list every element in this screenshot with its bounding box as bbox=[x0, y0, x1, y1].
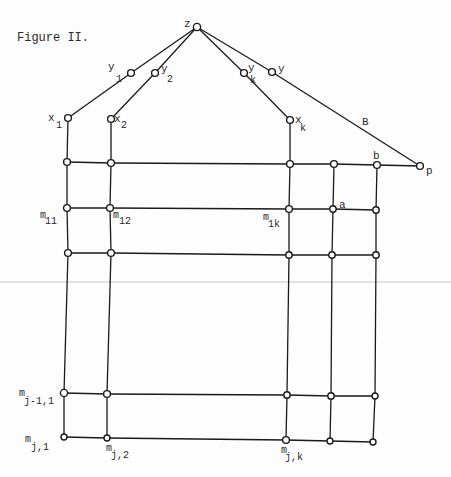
label-xk-sub: k bbox=[300, 123, 306, 134]
node-a bbox=[330, 206, 336, 212]
label-b: b bbox=[373, 150, 380, 162]
label-y1-sub: 1 bbox=[116, 74, 122, 85]
node-mj-1-c-b bbox=[372, 393, 378, 399]
label-mj-1-1-sub: j-1,1 bbox=[24, 396, 54, 407]
node-m11 bbox=[64, 205, 71, 212]
node-mj-1-1 bbox=[60, 389, 67, 396]
node-yk bbox=[241, 70, 248, 77]
tree-edges bbox=[67, 27, 420, 166]
node-mjk bbox=[283, 437, 290, 444]
node-r3-c-b bbox=[373, 252, 379, 258]
grid-horizontal-edges bbox=[64, 162, 420, 442]
nodes bbox=[60, 23, 423, 445]
edge-x1-row1 bbox=[67, 118, 68, 162]
node-mj-1-2 bbox=[104, 391, 111, 398]
node-mj1 bbox=[61, 434, 67, 440]
node-mj-1-k bbox=[284, 392, 290, 398]
label-a: a bbox=[339, 199, 346, 211]
label-p: p bbox=[426, 165, 433, 177]
label-y1-base: y bbox=[108, 61, 115, 73]
node-mj-c-a bbox=[327, 438, 333, 444]
node-p bbox=[417, 163, 424, 170]
grid-vertical-edges bbox=[64, 162, 377, 442]
node-r1-c1 bbox=[64, 159, 71, 166]
graph-svg: Figure II. z y 1 y 2 y k y x 1 x 2 x k B… bbox=[0, 0, 451, 477]
node-y bbox=[269, 69, 276, 76]
label-m12-sub: 12 bbox=[119, 216, 131, 227]
node-mj2 bbox=[104, 435, 110, 441]
node-r3-c-a bbox=[329, 252, 335, 258]
label-yk-base: y bbox=[248, 62, 255, 74]
figure-ii-diagram: Figure II. z y 1 y 2 y k y x 1 x 2 x k B… bbox=[0, 0, 451, 477]
node-y1 bbox=[128, 70, 135, 77]
node-r1-c2 bbox=[108, 160, 115, 167]
node-r3-c2 bbox=[108, 250, 115, 257]
label-x2-base: x bbox=[114, 113, 121, 125]
node-r3-c1 bbox=[65, 250, 72, 257]
label-m11-sub: 11 bbox=[45, 216, 57, 227]
label-x2-sub: 2 bbox=[121, 120, 127, 131]
node-z bbox=[193, 23, 200, 30]
label-mj2-sub: j,2 bbox=[111, 450, 129, 461]
edge-z-y bbox=[197, 27, 272, 72]
node-r1-ck bbox=[287, 161, 294, 168]
label-x1-sub: 1 bbox=[56, 120, 62, 131]
node-x1 bbox=[65, 115, 72, 122]
node-r1-c-a bbox=[331, 161, 338, 168]
label-mjk-sub: j,k bbox=[285, 452, 303, 463]
label-mj1-sub: j,1 bbox=[31, 442, 49, 453]
row-1-line bbox=[67, 162, 420, 166]
label-z: z bbox=[184, 18, 191, 30]
node-xk bbox=[287, 117, 294, 124]
node-y2 bbox=[152, 70, 159, 77]
node-mj-c-b bbox=[370, 439, 376, 445]
label-B: B bbox=[362, 116, 369, 128]
node-m1k bbox=[286, 206, 293, 213]
node-b bbox=[374, 162, 381, 169]
label-x1-base: x bbox=[48, 112, 55, 124]
node-r2-c-b bbox=[373, 207, 379, 213]
figure-title: Figure II. bbox=[17, 31, 89, 45]
edge-z-yk bbox=[197, 27, 244, 73]
label-m1k-sub: 1k bbox=[268, 219, 280, 230]
label-yk-sub: k bbox=[250, 75, 256, 86]
label-y2-sub: 2 bbox=[167, 74, 173, 85]
node-r3-ck bbox=[286, 252, 292, 258]
label-y: y bbox=[278, 63, 285, 75]
node-mj-1-c-a bbox=[328, 393, 334, 399]
